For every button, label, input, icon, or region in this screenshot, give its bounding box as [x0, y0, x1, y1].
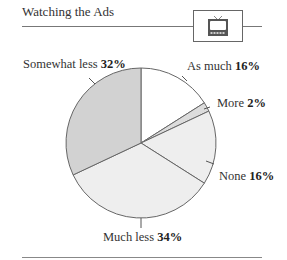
footer-rule: [22, 257, 262, 258]
leader-line: [89, 78, 95, 84]
label-much-less: Much less 34%: [103, 230, 182, 245]
label-as-much: As much 16%: [187, 59, 260, 74]
pie-chart: [0, 0, 287, 260]
label-somewhat-less: Somewhat less 32%: [23, 57, 126, 72]
label-more: More 2%: [217, 96, 266, 111]
label-none: None 16%: [219, 169, 274, 184]
